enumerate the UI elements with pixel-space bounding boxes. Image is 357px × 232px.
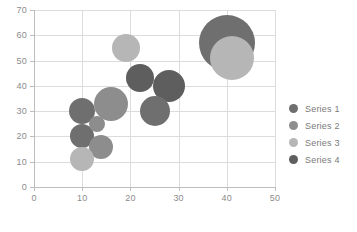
x-axis-tick-label: 50 — [270, 193, 280, 203]
bubble-point — [89, 116, 105, 132]
legend-swatch-icon — [289, 104, 298, 113]
x-axis-tick-label: 30 — [173, 193, 183, 203]
y-axis-tick-label: 40 — [17, 81, 27, 91]
y-axis-tick — [30, 136, 34, 137]
x-axis-tick — [275, 187, 276, 191]
y-axis-tick-label: 10 — [17, 157, 27, 167]
y-axis-tick — [30, 10, 34, 11]
bubble-chart: 010203040506070 01020304050 Series 1Seri… — [0, 0, 357, 232]
y-axis-tick-labels: 010203040506070 — [0, 0, 27, 232]
x-axis-tick-label: 0 — [31, 193, 36, 203]
bubble-point — [210, 36, 254, 80]
y-axis-tick-label: 0 — [22, 182, 27, 192]
legend-swatch-icon — [289, 121, 298, 130]
x-axis-tick — [179, 187, 180, 191]
x-axis-tick — [227, 187, 228, 191]
bubble-point — [140, 96, 170, 126]
legend-swatch-icon — [289, 155, 298, 164]
legend-item-label: Series 2 — [305, 121, 340, 131]
bubble-point — [112, 34, 140, 62]
legend-item-label: Series 1 — [305, 104, 340, 114]
y-axis-tick-label: 20 — [17, 131, 27, 141]
legend-item-series-1[interactable]: Series 1 — [289, 100, 355, 117]
legend-item-series-2[interactable]: Series 2 — [289, 117, 355, 134]
y-axis-line — [34, 10, 35, 188]
bubble-point — [70, 147, 94, 171]
legend-item-label: Series 3 — [305, 138, 340, 148]
x-axis-tick-label: 20 — [125, 193, 135, 203]
y-axis-tick — [30, 86, 34, 87]
gridline-vertical — [275, 10, 276, 187]
y-axis-tick — [30, 61, 34, 62]
x-axis-tick — [130, 187, 131, 191]
x-axis-tick-label: 40 — [222, 193, 232, 203]
y-axis-tick — [30, 162, 34, 163]
x-axis-tick — [34, 187, 35, 191]
chart-legend: Series 1Series 2Series 3Series 4 — [289, 100, 355, 168]
legend-item-series-3[interactable]: Series 3 — [289, 134, 355, 151]
x-axis-line — [34, 187, 276, 188]
x-axis-tick-label: 10 — [77, 193, 87, 203]
y-axis-tick-label: 70 — [17, 5, 27, 15]
y-axis-tick — [30, 35, 34, 36]
x-axis-tick — [82, 187, 83, 191]
y-axis-tick — [30, 111, 34, 112]
legend-item-label: Series 4 — [305, 155, 340, 165]
y-axis-tick-label: 50 — [17, 56, 27, 66]
bubble-point — [126, 64, 154, 92]
gridline-horizontal — [34, 10, 275, 11]
y-axis-tick-label: 30 — [17, 106, 27, 116]
y-axis-tick-label: 60 — [17, 30, 27, 40]
legend-item-series-4[interactable]: Series 4 — [289, 151, 355, 168]
plot-area — [34, 10, 275, 187]
legend-swatch-icon — [289, 138, 298, 147]
